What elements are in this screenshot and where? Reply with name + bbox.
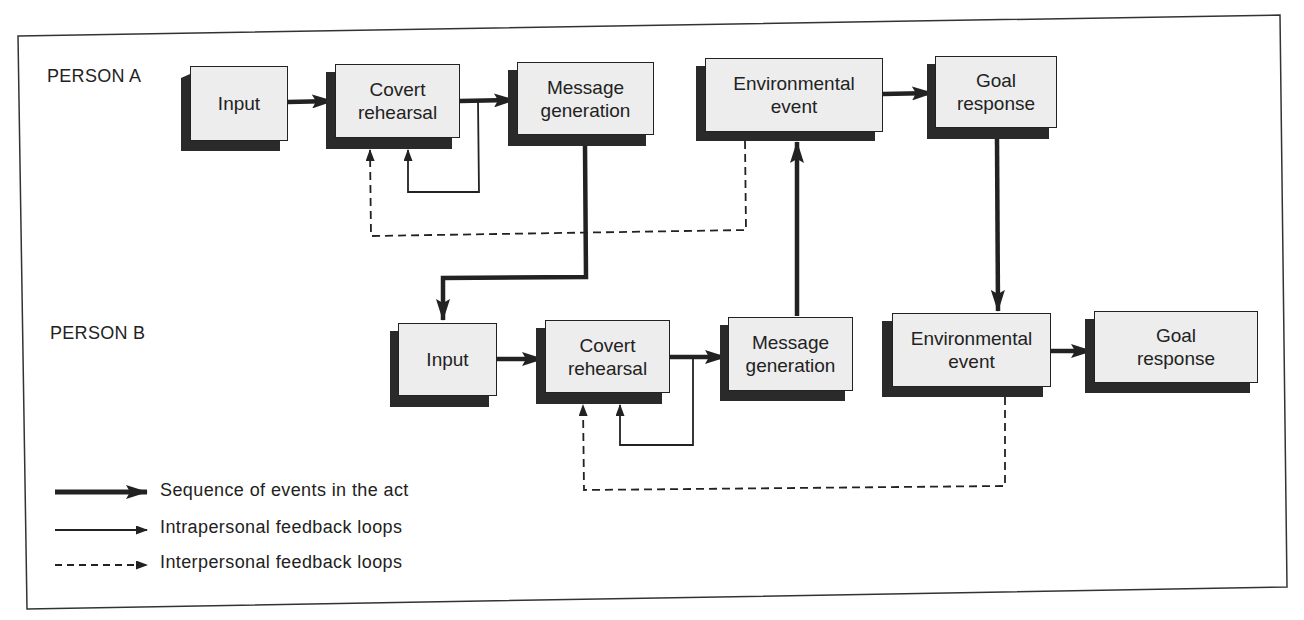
node-b-message: Message generation [720, 317, 853, 401]
node-label-line2: event [771, 95, 817, 118]
node-label-line2: generation [541, 99, 631, 122]
box-face: Goal response [1094, 311, 1258, 383]
communication-diagram: PERSON A PERSON B Input Covert rehearsal… [0, 0, 1304, 620]
node-b-input: Input [390, 323, 497, 407]
node-label-line2: response [1137, 347, 1215, 370]
edge-a-env-to-goal [883, 93, 933, 94]
box-face: Input [190, 66, 288, 141]
node-b-goal: Goal response [1085, 311, 1258, 393]
box-face: Environmental event [892, 313, 1051, 387]
node-b-env: Environmental event [882, 313, 1051, 397]
box-face: Input [398, 323, 497, 396]
node-a-message: Message generation [508, 62, 654, 146]
node-label-line2: rehearsal [568, 357, 647, 380]
box-face: Covert rehearsal [545, 320, 670, 393]
legend-label-intrapersonal: Intrapersonal feedback loops [160, 517, 402, 538]
node-label-line1: Message [547, 76, 624, 99]
node-b-covert: Covert rehearsal [536, 320, 670, 404]
loop-interpersonal-a [370, 141, 746, 236]
node-label-line1: Input [426, 348, 468, 371]
edge-a-message-to-b-input [443, 146, 586, 320]
node-label-line1: Covert [580, 334, 636, 357]
node-label-line2: generation [746, 354, 836, 377]
node-label-line1: Goal [976, 69, 1016, 92]
edge-a-goal-to-b-env [997, 139, 998, 311]
node-label-line1: Input [218, 92, 260, 115]
loop-interpersonal-b [583, 397, 1005, 490]
box-face: Message generation [517, 62, 654, 135]
legend-label-sequence: Sequence of events in the act [160, 480, 409, 501]
node-label-line2: event [948, 350, 994, 373]
node-label-line1: Covert [370, 78, 426, 101]
row-label-person-a: PERSON A [47, 66, 141, 87]
node-a-goal: Goal response [927, 56, 1057, 139]
node-label-line1: Environmental [733, 72, 854, 95]
node-label-line1: Environmental [911, 327, 1032, 350]
node-a-env: Environmental event [696, 58, 883, 141]
box-face: Covert rehearsal [335, 64, 460, 138]
node-a-covert: Covert rehearsal [326, 64, 460, 149]
box-face: Environmental event [705, 58, 883, 132]
node-label-line2: response [957, 92, 1035, 115]
node-label-line1: Message [752, 331, 829, 354]
edge-a-covert-to-message [460, 100, 515, 101]
row-label-person-b: PERSON B [50, 323, 145, 344]
legend-label-interpersonal: Interpersonal feedback loops [160, 552, 402, 573]
box-face: Message generation [728, 317, 853, 391]
node-label-line2: rehearsal [358, 101, 437, 124]
node-a-input: Input [181, 66, 288, 151]
node-label-line1: Goal [1156, 324, 1196, 347]
box-face: Goal response [935, 56, 1057, 128]
